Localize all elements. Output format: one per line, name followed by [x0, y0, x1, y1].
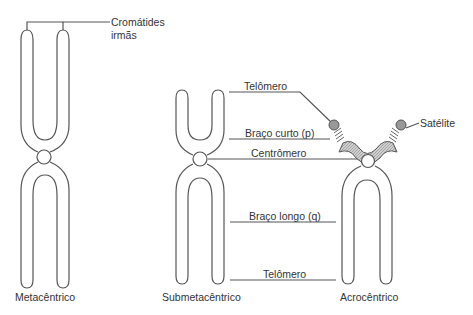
- telomere-top-leader: [229, 92, 333, 124]
- telomere-top-label: Telômero: [244, 80, 287, 92]
- acrocentric-label: Acrocêntrico: [340, 291, 398, 303]
- submetacentric-label: Submetacêntrico: [162, 291, 241, 303]
- submetacentric-chromosome: [176, 90, 224, 284]
- centromere-label: Centrômero: [251, 147, 306, 159]
- acrocentric-short-arm: [329, 120, 406, 168]
- telomere-bottom-label: Telômero: [263, 268, 306, 280]
- metacentric-chromosome: [21, 22, 110, 288]
- metacentric-label: Metacêntrico: [15, 291, 75, 303]
- acrocentric-chromosome: [342, 166, 392, 284]
- long-arm-label: Braço longo (q): [249, 210, 321, 222]
- chromosome-diagram: Cromátides irmãs Telômero Braço curto (p…: [0, 0, 473, 315]
- satellite-leader: [406, 123, 419, 128]
- sister-chromatids-label-2: irmãs: [111, 29, 137, 41]
- short-arm-label: Braço curto (p): [245, 127, 314, 139]
- satellite-left: [329, 120, 339, 130]
- satellite-label: Satélite: [420, 117, 455, 129]
- diagram-graphics: [0, 0, 473, 315]
- sister-chromatids-label-1: Cromátides: [111, 16, 165, 28]
- satellite-right: [396, 120, 406, 130]
